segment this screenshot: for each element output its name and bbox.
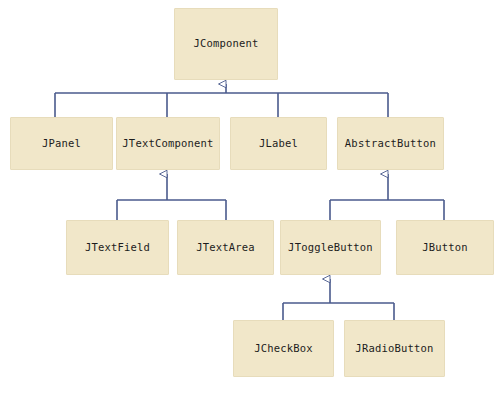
class-name-jbutton: JButton [422,242,468,254]
class-box-jpanel[interactable]: JPanel [10,117,113,170]
class-box-jbutton[interactable]: JButton [396,220,494,275]
class-box-jtextarea[interactable]: JTextArea [177,220,274,275]
class-box-jcomponent[interactable]: JComponent [174,8,278,80]
class-name-jradiobutton: JRadioButton [355,343,433,355]
class-box-abstractbutton[interactable]: AbstractButton [337,117,444,170]
class-box-jtextcomponent[interactable]: JTextComponent [116,117,220,170]
class-name-jtextcomponent: JTextComponent [122,138,213,150]
edge-abstractbutton-children [330,174,444,220]
class-box-jcheckbox[interactable]: JCheckBox [233,320,334,377]
class-name-jcheckbox: JCheckBox [254,343,313,355]
class-box-jtogglebutton[interactable]: JToggleButton [280,220,381,275]
class-box-jradiobutton[interactable]: JRadioButton [344,320,445,377]
edge-jtextcomponent-children [117,174,226,220]
class-name-abstractbutton: AbstractButton [345,138,436,150]
edge-jcomponent-children [55,84,388,117]
class-name-jtextarea: JTextArea [196,242,255,254]
edge-jtogglebutton-children [283,279,394,320]
class-hierarchy-diagram: JComponent JPanel JTextComponent JLabel … [0,0,500,398]
class-name-jpanel: JPanel [42,138,81,150]
class-name-jtogglebutton: JToggleButton [288,242,373,254]
class-box-jlabel[interactable]: JLabel [230,117,327,170]
class-name-jtextfield: JTextField [85,242,150,254]
class-name-jcomponent: JComponent [193,38,258,50]
class-box-jtextfield[interactable]: JTextField [66,220,169,275]
class-name-jlabel: JLabel [259,138,298,150]
